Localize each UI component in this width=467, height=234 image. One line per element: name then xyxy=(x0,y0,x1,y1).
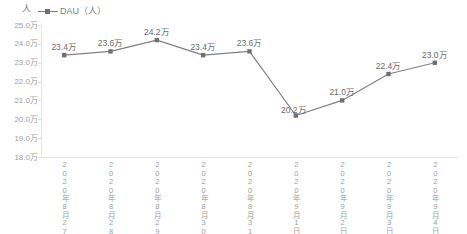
y-axis-tick-mark xyxy=(38,138,41,139)
y-axis-tick-mark xyxy=(38,157,41,158)
data-point-label: 21.0万 xyxy=(329,87,355,97)
y-axis-tick-mark xyxy=(38,25,41,26)
x-axis-tick-label: 2020年8月27日 xyxy=(60,160,68,234)
x-axis-tick-label: 2020年8月30日 xyxy=(199,160,207,234)
data-point-marker xyxy=(433,61,437,65)
x-axis-tick-labels: 2020年8月27日2020年8月28日2020年8月29日2020年8月30日… xyxy=(0,158,467,234)
data-point-label: 23.4万 xyxy=(51,42,77,52)
x-axis-tick-label: 2020年8月31日 xyxy=(246,160,254,234)
x-axis-tick-label: 2020年9月4日 xyxy=(431,160,439,234)
x-axis-tick-label: 2020年9月3日 xyxy=(385,160,393,234)
y-axis-tick-mark xyxy=(38,82,41,83)
data-point-label: 22.4万 xyxy=(376,61,402,71)
data-point-label: 23.6万 xyxy=(237,38,263,48)
y-axis-tick-mark xyxy=(38,100,41,101)
x-axis-tick-label: 2020年8月29日 xyxy=(153,160,161,234)
data-point-marker xyxy=(155,38,159,42)
data-point-marker xyxy=(201,53,205,57)
data-point-label: 24.2万 xyxy=(144,27,170,37)
data-point-label: 23.4万 xyxy=(190,42,216,52)
data-point-label: 23.0万 xyxy=(422,50,448,60)
data-point-marker xyxy=(340,98,344,102)
line-chart: 人 DAU（人） 25.0万24.0万23.0万22.0万21.0万20.0万1… xyxy=(0,0,467,234)
data-point-marker xyxy=(247,49,251,53)
y-axis-tick-mark xyxy=(38,119,41,120)
x-axis-tick-label: 2020年9月2日 xyxy=(338,160,346,234)
data-point-label: 23.6万 xyxy=(98,38,124,48)
x-axis-tick-label: 2020年9月1日 xyxy=(292,160,300,234)
data-point-label: 20.2万 xyxy=(281,105,307,115)
data-point-marker xyxy=(62,53,66,57)
data-point-marker xyxy=(386,72,390,76)
y-axis-tick-mark xyxy=(38,63,41,64)
y-axis-tick-mark xyxy=(38,44,41,45)
x-axis-tick-label: 2020年8月28日 xyxy=(107,160,115,234)
data-point-marker xyxy=(108,49,112,53)
